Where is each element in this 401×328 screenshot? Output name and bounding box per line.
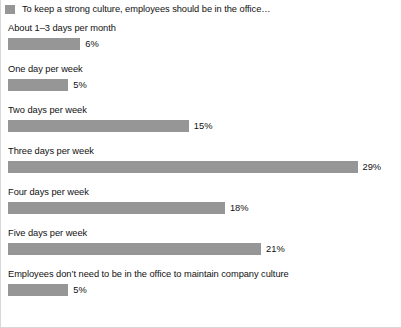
bar-row: Two days per week15%: [0, 104, 401, 145]
bar-track: 21%: [8, 243, 285, 255]
bar-value-label: 21%: [266, 243, 285, 255]
bar-row: About 1–3 days per month6%: [0, 22, 401, 63]
chart-legend: To keep a strong culture, employees shou…: [5, 3, 271, 15]
bar-value-label: 5%: [73, 79, 86, 91]
legend-swatch-icon: [5, 5, 15, 14]
bar-category-label: About 1–3 days per month: [8, 22, 116, 34]
bar-fill: [8, 38, 80, 50]
bar-value-label: 15%: [194, 120, 213, 132]
bar-value-label: 5%: [73, 284, 86, 296]
bar-row: Three days per week29%: [0, 145, 401, 186]
bar-category-label: Employees don’t need to be in the office…: [8, 268, 289, 280]
bar-category-label: Three days per week: [8, 145, 94, 157]
bar-row: Five days per week21%: [0, 227, 401, 268]
bar-track: 15%: [8, 120, 212, 132]
bar-fill: [8, 202, 225, 214]
bar-track: 5%: [8, 284, 87, 296]
bar-category-label: One day per week: [8, 63, 83, 75]
bar-fill: [8, 79, 68, 91]
bar-track: 18%: [8, 202, 249, 214]
bar-value-label: 6%: [85, 38, 98, 50]
bar-row: Four days per week18%: [0, 186, 401, 227]
bar-category-label: Two days per week: [8, 104, 87, 116]
bar-fill: [8, 284, 68, 296]
bar-track: 6%: [8, 38, 99, 50]
bar-value-label: 29%: [363, 161, 382, 173]
chart-title: To keep a strong culture, employees shou…: [22, 4, 271, 15]
bar-category-label: Four days per week: [8, 186, 89, 198]
bar-chart: To keep a strong culture, employees shou…: [0, 0, 401, 328]
plot-area: About 1–3 days per month6%One day per we…: [0, 22, 401, 309]
bar-fill: [8, 120, 189, 132]
bar-value-label: 18%: [230, 202, 249, 214]
bar-row: Employees don’t need to be in the office…: [0, 268, 401, 309]
bar-track: 29%: [8, 161, 381, 173]
bar-fill: [8, 161, 358, 173]
bar-track: 5%: [8, 79, 87, 91]
bar-fill: [8, 243, 261, 255]
bar-category-label: Five days per week: [8, 227, 87, 239]
bar-row: One day per week5%: [0, 63, 401, 104]
